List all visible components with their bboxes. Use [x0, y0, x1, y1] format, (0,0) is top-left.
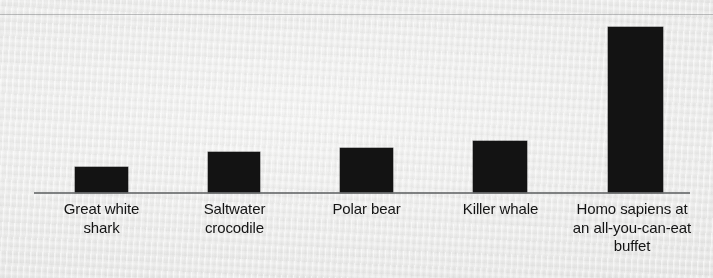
x-axis-label-homo-sapiens-buffet: Homo sapiens at an all-you-can-eat buffe… — [551, 200, 713, 256]
x-axis-label-saltwater-crocodile: Saltwater crocodile — [164, 200, 305, 237]
plot-area: Great white shark Saltwater crocodile Po… — [0, 0, 713, 278]
bar-killer-whale — [473, 141, 527, 193]
bar-great-white-shark — [75, 167, 128, 193]
x-axis-baseline — [34, 192, 690, 194]
bar-homo-sapiens-buffet — [608, 27, 663, 193]
x-axis-label-polar-bear: Polar bear — [296, 200, 437, 219]
bar-chart-image: Great white shark Saltwater crocodile Po… — [0, 0, 713, 278]
x-axis-label-great-white-shark: Great white shark — [31, 200, 172, 237]
bar-polar-bear — [340, 148, 393, 193]
bar-saltwater-crocodile — [208, 152, 260, 193]
x-axis-label-killer-whale: Killer whale — [430, 200, 571, 219]
